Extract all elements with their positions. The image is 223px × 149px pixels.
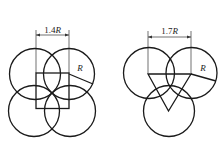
dimension-1-7R: 1.7R: [148, 26, 191, 73]
circle-top-left: [124, 48, 175, 99]
radius-line: [69, 74, 93, 84]
inner-square: [36, 73, 69, 109]
diagram-canvas: 1.4R R 1.7R R: [0, 0, 223, 149]
dimension-label: 1.7R: [161, 26, 178, 36]
figure-triangle-arrangement: 1.7R R: [124, 26, 218, 137]
radius-label: R: [199, 63, 206, 73]
radius-line: [191, 74, 216, 81]
radius-label: R: [76, 63, 83, 73]
inner-triangle: [148, 74, 191, 111]
arrow-right-icon: [65, 34, 69, 37]
arrow-left-icon: [36, 34, 40, 37]
dimension-label: 1.4R: [44, 25, 61, 35]
circle-top-right: [166, 48, 217, 99]
arrow-left-icon: [148, 36, 152, 39]
figure-square-arrangement: 1.4R R: [9, 25, 96, 137]
arrow-right-icon: [187, 36, 191, 39]
circle-bottom-right: [45, 86, 96, 137]
